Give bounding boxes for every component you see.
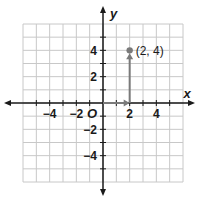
x-axis-label: x — [182, 86, 191, 101]
x-axis-left-arrow-icon — [4, 100, 11, 106]
point-label: (2, 4) — [136, 44, 164, 58]
x-tick-label: 4 — [153, 107, 160, 121]
y-tick-label: 2 — [90, 70, 97, 84]
coordinate-plane: −4−22442−2−4Oxy(2, 4) — [0, 0, 199, 200]
y-tick-label: −4 — [83, 149, 97, 163]
axes — [4, 6, 195, 196]
y-axis-up-arrow-icon — [100, 6, 106, 13]
arrowhead-up-icon — [126, 53, 133, 59]
y-tick-label: −2 — [83, 123, 97, 137]
y-axis-down-arrow-icon — [100, 189, 106, 196]
x-tick-label: −2 — [69, 107, 83, 121]
x-tick-label: 2 — [126, 107, 133, 121]
point-2-4 — [126, 47, 132, 53]
y-axis-label: y — [109, 6, 118, 21]
origin-label: O — [87, 106, 97, 121]
x-tick-label: −4 — [43, 107, 57, 121]
y-tick-label: 4 — [90, 44, 97, 58]
labels: −4−22442−2−4Oxy(2, 4) — [43, 6, 192, 163]
